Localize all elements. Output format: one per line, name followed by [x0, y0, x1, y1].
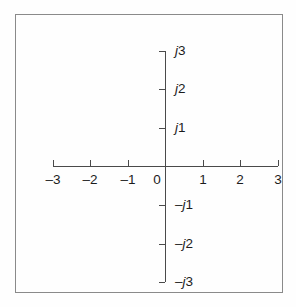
tick-label-y--j3: –j3	[175, 274, 193, 290]
tick-label-x--2: –2	[70, 172, 110, 188]
tick-x--2	[90, 160, 91, 166]
tick-label-y--j1-prefix: –	[175, 197, 183, 212]
tick-label-y-j2-digit: 2	[178, 81, 186, 96]
tick-label-y--j2-prefix: –	[175, 236, 183, 251]
tick-y--j1	[159, 205, 165, 206]
plot-frame: –3 –2 –1 0 1 2 3 j3 j2 j1 –j1 –j2 –j3	[15, 14, 283, 293]
tick-label-y-j3: j3	[175, 43, 186, 59]
tick-label-y--j3-digit: 3	[186, 274, 194, 289]
tick-label-y-j3-digit: 3	[178, 43, 186, 58]
tick-x-1	[203, 160, 204, 166]
tick-y-j3	[159, 51, 165, 52]
tick-x--3	[53, 160, 54, 166]
tick-x-3	[278, 160, 279, 166]
tick-label-y-j1: j1	[175, 120, 186, 136]
tick-label-y--j1: –j1	[175, 197, 193, 213]
tick-x-2	[240, 160, 241, 166]
tick-label-y-j2: j2	[175, 81, 186, 97]
tick-y--j2	[159, 244, 165, 245]
tick-label-y-j1-digit: 1	[178, 120, 186, 135]
imaginary-axis-line	[165, 51, 166, 282]
tick-label-x--3: –3	[33, 172, 73, 188]
tick-y--j3	[159, 282, 165, 283]
tick-label-y--j2-digit: 2	[186, 236, 194, 251]
tick-label-y--j3-prefix: –	[175, 274, 183, 289]
tick-x--1	[128, 160, 129, 166]
complex-plane-figure: –3 –2 –1 0 1 2 3 j3 j2 j1 –j1 –j2 –j3	[0, 0, 296, 307]
tick-y-j1	[159, 128, 165, 129]
tick-label-origin: 0	[137, 172, 177, 188]
tick-label-y--j2: –j2	[175, 236, 193, 252]
tick-label-x-3: 3	[258, 172, 296, 188]
tick-label-x-1: 1	[183, 172, 223, 188]
tick-label-x-2: 2	[220, 172, 260, 188]
tick-label-y--j1-digit: 1	[186, 197, 194, 212]
tick-y-j2	[159, 89, 165, 90]
